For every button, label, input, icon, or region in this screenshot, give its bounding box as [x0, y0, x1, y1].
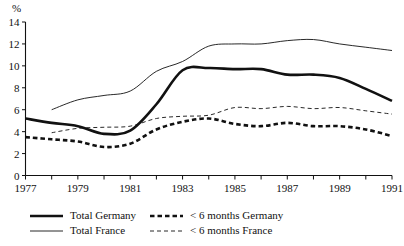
y-tick-label: 2	[14, 148, 20, 160]
y-axis-title: %	[12, 2, 21, 14]
legend-label: < 6 months Germany	[190, 209, 284, 221]
y-tick-label: 4	[14, 126, 20, 138]
y-tick-label: 12	[9, 38, 20, 50]
legend-label: < 6 months France	[190, 224, 272, 236]
chart-figure: % 02468101214 19771979198119831985198719…	[0, 0, 404, 246]
series-line	[52, 106, 392, 132]
series-lines	[26, 39, 393, 147]
y-tick-label: 8	[14, 82, 20, 94]
y-tick-label: 0	[14, 170, 20, 182]
x-tick-label: 1987	[276, 182, 299, 194]
x-tick-label: 1989	[329, 182, 352, 194]
legend-label: Total France	[70, 224, 125, 236]
legend-label: Total Germany	[70, 209, 137, 221]
y-axis-ticks: 02468101214	[9, 16, 26, 182]
x-tick-label: 1983	[172, 182, 195, 194]
line-chart: % 02468101214 19771979198119831985198719…	[0, 0, 404, 246]
x-tick-label: 1977	[15, 182, 38, 194]
y-tick-label: 14	[9, 16, 21, 28]
chart-legend: Total Germany< 6 months GermanyTotal Fra…	[30, 209, 284, 236]
x-axis-ticks: 19771979198119831985198719891991	[15, 176, 404, 194]
series-line	[26, 118, 393, 147]
x-tick-label: 1981	[119, 182, 141, 194]
x-tick-label: 1979	[67, 182, 90, 194]
series-line	[52, 39, 392, 109]
y-tick-label: 10	[9, 60, 21, 72]
x-tick-label: 1991	[381, 182, 403, 194]
series-line	[26, 67, 393, 135]
y-tick-label: 6	[14, 104, 20, 116]
x-tick-label: 1985	[224, 182, 247, 194]
